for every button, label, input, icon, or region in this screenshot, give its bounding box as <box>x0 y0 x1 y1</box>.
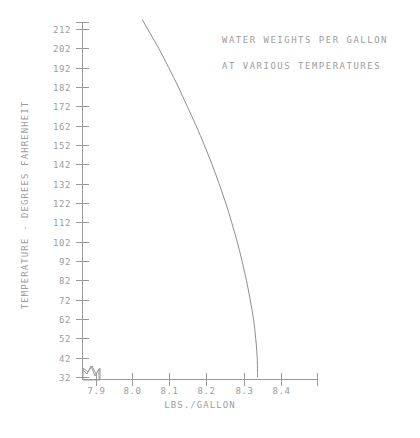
y-tick-label: 122 <box>53 199 71 209</box>
y-tick-label: 72 <box>59 296 71 306</box>
y-tick-label: 132 <box>53 180 71 190</box>
x-tick-label: 8.1 <box>160 386 178 396</box>
y-tick-label: 162 <box>53 122 71 132</box>
y-tick-label: 152 <box>53 141 71 151</box>
water-weight-curve <box>142 19 257 377</box>
x-tick-label: 8.2 <box>197 386 215 396</box>
y-tick-label: 212 <box>53 25 71 35</box>
water-weight-per-gallon-chart: 3242526272829210211212213214215216217218… <box>0 0 420 438</box>
y-tick-label: 202 <box>53 44 71 54</box>
y-tick-label: 142 <box>53 160 71 170</box>
x-axis-tick-labels: 7.98.08.18.28.38.4 <box>87 386 290 396</box>
y-tick-label: 102 <box>53 238 71 248</box>
x-axis: 7.98.08.18.28.38.4 LBS./GALLON <box>83 373 319 410</box>
y-tick-label: 52 <box>59 334 71 344</box>
y-tick-label: 42 <box>59 354 71 364</box>
y-tick-label: 62 <box>59 315 71 325</box>
chart-title: WATER WEIGHTS PER GALLON <box>222 35 388 45</box>
y-tick-label: 112 <box>53 218 71 228</box>
y-tick-label: 32 <box>59 373 71 383</box>
chart-subtitle: AT VARIOUS TEMPERATURES <box>222 61 381 71</box>
y-tick-label: 82 <box>59 276 71 286</box>
x-tick-label: 7.9 <box>87 386 105 396</box>
x-tick-label: 8.3 <box>235 386 253 396</box>
y-axis: 3242526272829210211212213214215216217218… <box>20 22 89 383</box>
x-axis-title: LBS./GALLON <box>164 400 236 410</box>
y-tick-label: 192 <box>53 64 71 74</box>
y-tick-label: 92 <box>59 257 71 267</box>
x-tick-label: 8.4 <box>272 386 290 396</box>
chart-title-block: WATER WEIGHTS PER GALLON AT VARIOUS TEMP… <box>222 35 388 71</box>
y-tick-label: 172 <box>53 102 71 112</box>
y-axis-tick-labels: 3242526272829210211212213214215216217218… <box>53 25 71 383</box>
chart-figure: 3242526272829210211212213214215216217218… <box>0 0 420 438</box>
x-tick-label: 8.0 <box>123 386 141 396</box>
y-axis-title: TEMPERATURE - DEGREES FAHRENHEIT <box>20 101 30 310</box>
y-tick-label: 182 <box>53 83 71 93</box>
data-series-group <box>142 19 257 377</box>
